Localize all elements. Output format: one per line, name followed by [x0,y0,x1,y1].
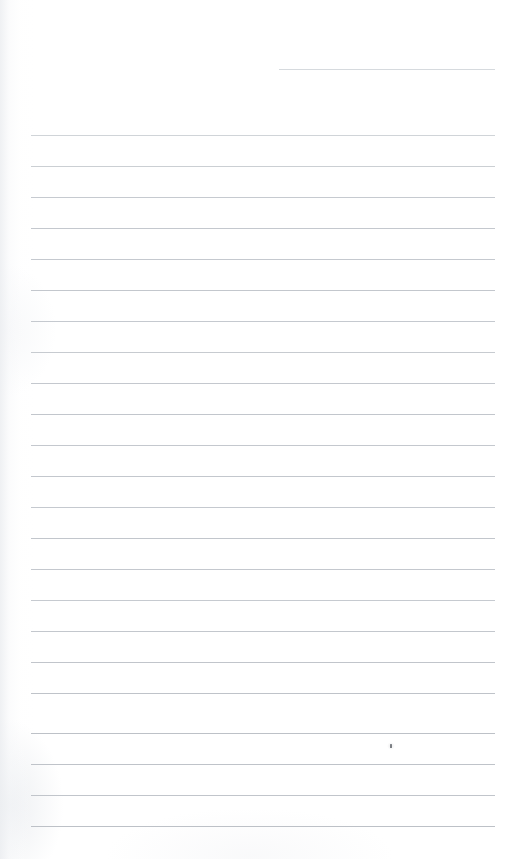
paper-texture-overlay [0,0,512,859]
rule-line [31,600,495,601]
rule-line [31,476,495,477]
rule-line [31,569,495,570]
rule-line [31,321,495,322]
rule-line [31,764,495,765]
ink-speck [390,744,392,748]
rule-line [31,795,495,796]
rule-line [31,135,495,136]
rule-line [31,662,495,663]
rule-line [31,693,495,694]
rule-line [31,166,495,167]
rule-line [31,352,495,353]
rule-line [31,631,495,632]
rule-line [31,826,495,827]
rule-line [279,69,495,70]
rule-line [31,197,495,198]
rule-line [31,290,495,291]
rule-line [31,414,495,415]
rule-line [31,538,495,539]
rule-line [31,228,495,229]
rule-line [31,445,495,446]
rule-line [31,259,495,260]
scanned-page [0,0,512,859]
rule-line [31,733,495,734]
rule-line [31,383,495,384]
rule-line [31,507,495,508]
